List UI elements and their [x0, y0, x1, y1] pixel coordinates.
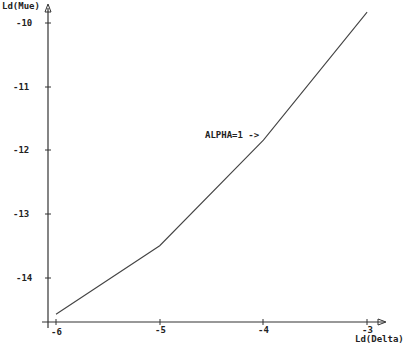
series-annotation: ALPHA=1 -> [205, 130, 260, 140]
y-tick-label: -13 [13, 209, 29, 219]
y-tick-label: -11 [13, 82, 29, 92]
x-axis-label: Ld(Delta) [355, 334, 404, 344]
x-tick-label: -4 [258, 325, 269, 335]
y-tick-label: -10 [16, 18, 32, 28]
series-line-alpha-1 [56, 12, 367, 314]
x-tick-label: -6 [51, 327, 62, 337]
y-axis-label: Ld(Mue) [2, 1, 40, 11]
y-tick-label: -14 [16, 273, 33, 283]
y-tick-label: -12 [13, 145, 29, 155]
line-chart: -10 -11 -12 -13 -14 -6 -5 -4 -3 Ld(Mue) … [0, 0, 405, 344]
y-ticks: -10 -11 -12 -13 -14 [13, 18, 51, 283]
x-tick-label: -5 [155, 325, 166, 335]
